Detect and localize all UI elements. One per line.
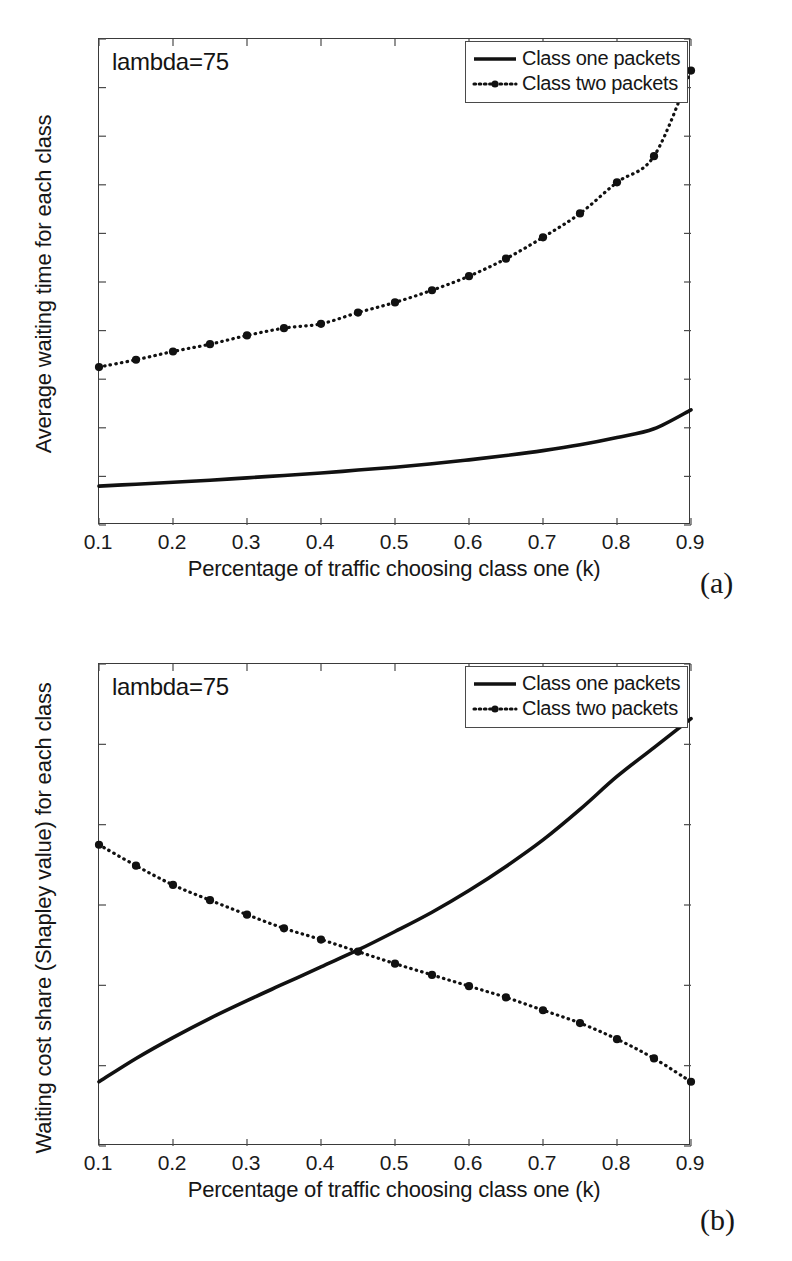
panel-a-caption: (a) [700, 566, 733, 600]
x-tick-label: 0.7 [528, 1151, 556, 1175]
x-tick-label: 0.8 [602, 1151, 630, 1175]
x-tick-label: 0.4 [306, 1151, 334, 1175]
figure-container: Average waiting time for each class lamb… [0, 0, 792, 1261]
chart-a-xlabel: Percentage of traffic choosing class one… [98, 556, 690, 582]
x-tick-label: 0.3 [232, 530, 260, 554]
x-tick-label: 0.3 [232, 1151, 260, 1175]
x-tick-label: 0.7 [528, 530, 556, 554]
x-tick-label: 0.6 [454, 530, 482, 554]
x-tick-label: 0.5 [380, 1151, 408, 1175]
chart-b-x-tick-labels: 0.10.20.30.40.50.60.70.80.9 [0, 620, 792, 1261]
x-tick-label: 0.2 [158, 1151, 186, 1175]
x-tick-label: 0.8 [602, 530, 630, 554]
panel-b-caption: (b) [700, 1203, 735, 1237]
panel-b: Waiting cost share (Shapley value) for e… [0, 620, 792, 1261]
x-tick-label: 0.1 [84, 530, 112, 554]
x-tick-label: 0.6 [454, 1151, 482, 1175]
chart-a-x-tick-labels: 0.10.20.30.40.50.60.70.80.9 [0, 0, 792, 620]
x-tick-label: 0.9 [676, 530, 704, 554]
chart-b-xlabel: Percentage of traffic choosing class one… [98, 1177, 690, 1203]
x-tick-label: 0.9 [676, 1151, 704, 1175]
x-tick-label: 0.2 [158, 530, 186, 554]
x-tick-label: 0.4 [306, 530, 334, 554]
x-tick-label: 0.5 [380, 530, 408, 554]
panel-a: Average waiting time for each class lamb… [0, 0, 792, 620]
x-tick-label: 0.1 [84, 1151, 112, 1175]
